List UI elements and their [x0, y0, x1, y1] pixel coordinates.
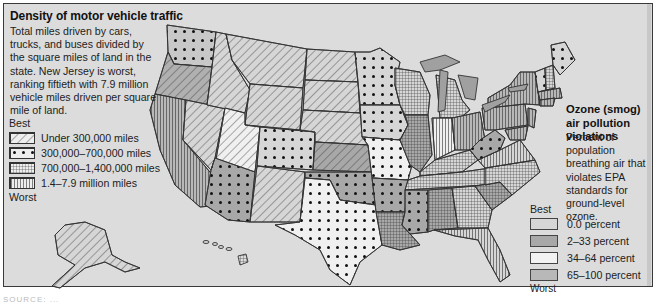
- ozone-best-label: Best: [530, 203, 551, 215]
- traffic-legend-row: Under 300,000 miles: [9, 131, 139, 144]
- state-new-jersey: [528, 108, 536, 128]
- ozone-legend-row: 34–64 percent: [530, 251, 635, 265]
- traffic-legend-label: 1.4–7.9 million miles: [41, 177, 137, 189]
- ozone-legend-label: 0.0 percent: [567, 218, 620, 230]
- traffic-worst-label: Worst: [9, 191, 36, 203]
- ozone-swatch: [530, 269, 558, 281]
- state-north-dakota: [305, 49, 358, 82]
- state-washington: [167, 25, 216, 67]
- state-mississippi: [402, 190, 428, 234]
- state-arkansas: [372, 178, 408, 212]
- vertical-lines-swatch: [9, 177, 35, 189]
- ozone-legend-label: 2–33 percent: [567, 235, 629, 247]
- traffic-description: Total miles driven by cars, trucks, and …: [10, 25, 160, 117]
- state-florida: [434, 228, 510, 282]
- state-kansas: [313, 142, 372, 172]
- ozone-swatch: [530, 252, 558, 264]
- state-indiana: [432, 118, 455, 160]
- state-iowa: [360, 105, 408, 140]
- source-caption: SOURCE: ...: [3, 295, 59, 304]
- traffic-legend-row: 700,000–1,400,000 miles: [9, 161, 160, 174]
- ozone-swatch: [530, 235, 558, 247]
- traffic-legend-label: Under 300,000 miles: [41, 132, 139, 144]
- ozone-legend-row: 65–100 percent: [530, 268, 641, 282]
- traffic-legend-row: 300,000–700,000 miles: [9, 146, 151, 159]
- state-maine: [551, 42, 575, 75]
- state-hawaii: [203, 241, 248, 266]
- traffic-legend-row: 1.4–7.9 million miles: [9, 176, 137, 189]
- ozone-description: Percent of population breathing air that…: [566, 131, 654, 223]
- state-wyoming: [245, 84, 303, 130]
- state-south-dakota: [303, 80, 360, 113]
- traffic-best-label: Best: [9, 117, 30, 129]
- dots-swatch: [9, 147, 35, 159]
- traffic-legend-label: 300,000–700,000 miles: [41, 147, 151, 159]
- state-minnesota: [355, 48, 400, 105]
- ozone-legend-row: 0.0 percent: [530, 217, 620, 231]
- traffic-legend-label: 700,000–1,400,000 miles: [41, 162, 160, 174]
- ozone-legend-label: 65–100 percent: [567, 269, 641, 281]
- crosshatch-swatch: [9, 162, 35, 174]
- ozone-swatch: [530, 218, 558, 230]
- diagonal-hatch-swatch: [9, 132, 35, 144]
- state-alaska: [52, 222, 140, 288]
- state-new-mexico: [250, 166, 305, 222]
- ozone-legend-label: 34–64 percent: [567, 252, 635, 264]
- traffic-title: Density of motor vehicle traffic: [10, 9, 183, 23]
- ozone-legend-row: 2–33 percent: [530, 234, 629, 248]
- state-colorado: [257, 127, 315, 170]
- ozone-worst-label: Worst: [530, 283, 556, 294]
- state-new-hampshire: [545, 65, 555, 90]
